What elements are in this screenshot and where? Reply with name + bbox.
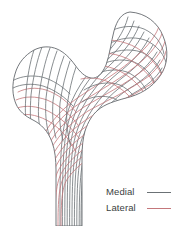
legend: Medial Lateral	[106, 184, 174, 216]
legend-label-lateral: Lateral	[106, 203, 146, 213]
femur-trajectory-figure: Medial Lateral	[0, 0, 176, 226]
legend-item-lateral: Lateral	[106, 200, 174, 216]
head-lateral-arcs	[81, 40, 163, 114]
legend-swatch-lateral	[147, 208, 171, 209]
legend-swatch-medial	[147, 192, 171, 193]
legend-item-medial: Medial	[106, 184, 174, 200]
legend-label-medial: Medial	[106, 187, 146, 197]
